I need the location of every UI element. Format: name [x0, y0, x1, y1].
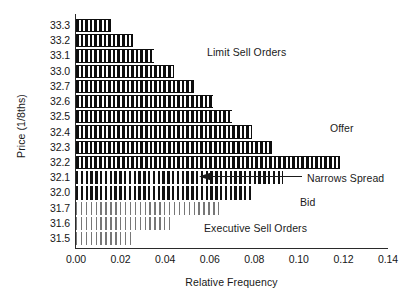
bar-row — [76, 156, 388, 169]
annotation-executive-sell-orders: Executive Sell Orders — [204, 222, 307, 234]
x-axis-tick-label: 0.14 — [363, 253, 413, 265]
x-axis-tick-label: 0.02 — [96, 253, 146, 265]
bar-row — [76, 80, 388, 93]
y-axis-tick-label: 32.7 — [30, 81, 70, 92]
y-axis-tick-label: 32.2 — [30, 157, 70, 168]
bar — [76, 141, 272, 154]
bar — [76, 34, 133, 47]
bar-row — [76, 186, 388, 199]
y-axis-tick-label: 32.0 — [30, 187, 70, 198]
x-axis-tick-label: 0.04 — [140, 253, 190, 265]
bar-row — [76, 95, 388, 108]
y-axis-tick-label: 32.1 — [30, 172, 70, 183]
x-axis-line — [75, 248, 388, 249]
x-axis-tick-label: 0.00 — [51, 253, 101, 265]
x-axis-tick-label: 0.12 — [318, 253, 368, 265]
bar-row — [76, 65, 388, 78]
bar — [76, 65, 174, 78]
y-axis-tick-label: 33.0 — [30, 66, 70, 77]
bar-row — [76, 19, 388, 32]
y-axis-tick-label: 31.6 — [30, 218, 70, 229]
x-axis-tick-label: 0.08 — [229, 253, 279, 265]
y-axis-tick-label: 32.5 — [30, 111, 70, 122]
bar — [76, 49, 154, 62]
bar — [76, 156, 340, 169]
bar — [76, 125, 252, 138]
x-axis-title: Relative Frequency — [75, 276, 388, 288]
bar — [76, 232, 132, 245]
bar-row — [76, 141, 388, 154]
y-axis-tick-label: 32.6 — [30, 96, 70, 107]
y-axis-tick-label: 32.4 — [30, 127, 70, 138]
y-axis-tick-label: 33.2 — [30, 35, 70, 46]
order-book-chart: Price (1/8ths) 33.333.233.133.032.732.63… — [0, 0, 418, 298]
bar-row — [76, 202, 388, 215]
y-axis-tick-label: 33.3 — [30, 20, 70, 31]
narrows-spread-arrow-icon — [198, 170, 304, 183]
y-axis-tick-label: 32.3 — [30, 142, 70, 153]
y-axis-tick-label: 33.1 — [30, 50, 70, 61]
y-axis-tick-label: 31.5 — [30, 233, 70, 244]
bar — [76, 202, 219, 215]
x-axis-tick-label: 0.06 — [185, 253, 235, 265]
annotation-limit-sell-orders: Limit Sell Orders — [207, 46, 286, 58]
bar — [76, 110, 232, 123]
annotation-offer: Offer — [330, 122, 354, 134]
bar — [76, 217, 170, 230]
bar — [76, 95, 213, 108]
x-axis-tick-labels: 0.000.020.040.060.080.100.120.14 — [0, 253, 418, 271]
bar — [76, 19, 111, 32]
y-axis-tick-label: 31.7 — [30, 203, 70, 214]
bar — [76, 186, 254, 199]
annotation-bid: Bid — [300, 196, 315, 208]
bar — [76, 80, 194, 93]
annotation-narrows-spread: Narrows Spread — [307, 172, 384, 184]
x-axis-tick-label: 0.10 — [274, 253, 324, 265]
